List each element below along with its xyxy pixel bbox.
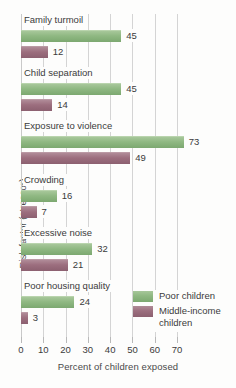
bar-row: 45 — [21, 30, 177, 42]
legend-swatch-icon-poor — [133, 291, 153, 302]
chart-legend: Poor children Middle-income children — [133, 290, 231, 332]
bar-value-label: 32 — [95, 242, 110, 255]
bar-middle-income-children — [21, 99, 52, 111]
bar-middle-income-children — [21, 312, 28, 324]
legend-swatch-icon-middle — [133, 306, 153, 317]
bar-value-label: 12 — [51, 45, 66, 58]
bar-value-label: 16 — [60, 189, 75, 202]
legend-label-poor: Poor children — [159, 290, 215, 302]
bar-poor-children — [21, 190, 57, 202]
x-tick-label-50: 50 — [120, 344, 144, 355]
bar-middle-income-children — [21, 152, 130, 164]
x-tick-label-20: 20 — [54, 344, 78, 355]
legend-label-middle: Middle-income children — [159, 305, 231, 329]
bar-row: 7 — [21, 206, 177, 218]
bar-poor-children — [21, 83, 121, 95]
category-label: Child separation — [23, 67, 96, 79]
x-tick-label-70: 70 — [165, 344, 189, 355]
bar-row: 14 — [21, 99, 177, 111]
legend-item-poor-children: Poor children — [133, 290, 231, 302]
bar-row: 16 — [21, 190, 177, 202]
x-tick-0 — [21, 337, 22, 343]
x-tick-70 — [177, 337, 178, 343]
bar-poor-children — [21, 296, 74, 308]
bar-row: 73 — [21, 136, 177, 148]
bar-chart: Risk factor (stressor) Family turmoil451… — [0, 0, 236, 388]
legend-item-middle-income-children: Middle-income children — [133, 305, 231, 329]
bar-value-label: 24 — [77, 295, 92, 308]
bar-row: 12 — [21, 46, 177, 58]
x-tick-20 — [66, 337, 67, 343]
bar-value-label: 21 — [71, 258, 86, 271]
x-tick-label-30: 30 — [76, 344, 100, 355]
category-label: Crowding — [23, 174, 67, 186]
x-tick-label-60: 60 — [143, 344, 167, 355]
category-label: Exposure to violence — [23, 120, 115, 132]
bar-middle-income-children — [21, 46, 48, 58]
bar-middle-income-children — [21, 259, 68, 271]
bar-value-label: 45 — [124, 82, 139, 95]
x-tick-60 — [155, 337, 156, 343]
bar-value-label: 14 — [55, 98, 70, 111]
x-tick-50 — [132, 337, 133, 343]
x-tick-40 — [110, 337, 111, 343]
category-label: Poor housing quality — [23, 280, 113, 292]
bar-row: 32 — [21, 243, 177, 255]
x-tick-30 — [88, 337, 89, 343]
x-tick-label-0: 0 — [9, 344, 33, 355]
bar-middle-income-children — [21, 206, 37, 218]
bar-value-label: 49 — [133, 151, 148, 164]
bar-row: 49 — [21, 152, 177, 164]
bar-poor-children — [21, 243, 92, 255]
x-tick-10 — [43, 337, 44, 343]
bar-poor-children — [21, 30, 121, 42]
bar-row: 21 — [21, 259, 177, 271]
bar-value-label: 7 — [40, 205, 49, 218]
category-label: Excessive noise — [23, 227, 95, 239]
bar-value-label: 73 — [187, 135, 202, 148]
x-tick-label-10: 10 — [31, 344, 55, 355]
x-axis-title: Percent of children exposed — [0, 361, 236, 372]
bar-value-label: 45 — [124, 29, 139, 42]
category-label: Family turmoil — [23, 14, 86, 26]
bar-poor-children — [21, 136, 184, 148]
bar-row: 45 — [21, 83, 177, 95]
x-tick-label-40: 40 — [98, 344, 122, 355]
bar-value-label: 3 — [31, 311, 40, 324]
